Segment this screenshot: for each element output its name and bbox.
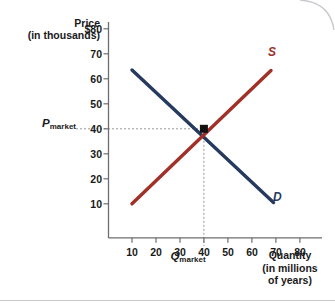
price-market-subscript: market — [50, 122, 76, 131]
y-tick-label-70: 70 — [56, 48, 102, 60]
x-axis-subtitle-line1: (in millions — [248, 262, 332, 275]
price-market-variable: P — [42, 117, 50, 129]
quantity-market-label: Qmarket — [140, 250, 236, 267]
x-axis-title-block: Quantity (in millions of years) — [248, 249, 332, 287]
axis-lines — [109, 22, 323, 238]
quantity-market-variable: Q — [170, 250, 179, 262]
x-axis-title: Quantity — [248, 249, 332, 262]
y-tick-label-80: $80 — [56, 23, 102, 35]
supply-curve-label: S — [268, 45, 276, 59]
quantity-market-subscript: market — [179, 255, 205, 264]
equilibrium-marker — [200, 125, 208, 133]
page-corner-arc — [300, 0, 334, 30]
x-axis-ticks — [132, 238, 300, 243]
y-tick-label-30: 30 — [56, 148, 102, 160]
y-tick-label-60: 60 — [56, 73, 102, 85]
supply-demand-figure: Price (in thousands) $80 70 60 50 40 30 … — [0, 0, 335, 308]
price-market-label: Pmarket — [14, 117, 76, 134]
y-axis-ticks — [104, 29, 109, 204]
y-tick-label-20: 20 — [56, 173, 102, 185]
x-axis-subtitle-line2: of years) — [248, 274, 332, 287]
demand-curve-label: D — [273, 190, 282, 204]
guide-lines — [76, 129, 204, 246]
y-tick-label-10: 10 — [56, 198, 102, 210]
y-tick-label-50: 50 — [56, 98, 102, 110]
